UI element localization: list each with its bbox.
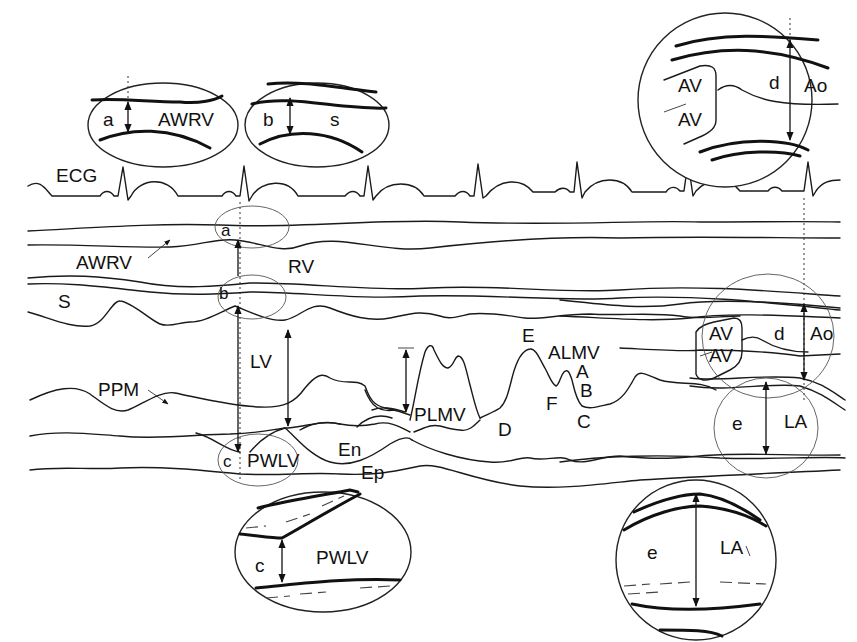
inset-a-measure-label: a: [103, 110, 114, 129]
label-meas-d: d: [774, 324, 785, 343]
inset-e: [616, 480, 776, 640]
label-aorta: Ao: [810, 324, 833, 343]
lv-septal-surface-line: [28, 301, 740, 326]
aorta-anterior-wall-1: [560, 300, 840, 308]
ppm-line: [30, 375, 410, 415]
aorta-anterior-wall-2: [560, 315, 840, 320]
label-aortic-valve-top: AV: [709, 324, 733, 343]
awrv-pointer: [148, 240, 170, 258]
label-meas-e: e: [732, 414, 743, 433]
rv-anterior-wall-line-2: [28, 237, 840, 249]
lv-posterior-endocardium-line: [30, 423, 410, 437]
label-septum: S: [58, 292, 71, 311]
label-left-atrium: LA: [784, 412, 807, 431]
label-point-d: D: [498, 420, 512, 439]
inset-d-valve-top-label: AV: [678, 76, 702, 95]
inset-d-measure-label: d: [769, 73, 780, 92]
inset-b-measure-label: b: [263, 110, 274, 129]
inset-e-measure-label: e: [647, 543, 658, 562]
inset-d: [638, 13, 838, 187]
label-aortic-valve-bottom: AV: [709, 346, 733, 365]
label-lv: LV: [250, 352, 272, 371]
label-point-c: C: [577, 412, 591, 431]
label-pwlv: PWLV: [247, 451, 299, 470]
label-meas-a: a: [221, 222, 230, 239]
label-meas-c: c: [223, 453, 232, 470]
label-plmv: PLMV: [414, 405, 466, 424]
la-posterior-wall-line: [560, 456, 845, 462]
ppm-pointer: [148, 390, 168, 404]
label-ppm: PPM: [98, 380, 139, 399]
label-awrv: AWRV: [76, 253, 132, 272]
inset-d-label: Ao: [804, 76, 827, 95]
inset-e-label: LA: [720, 538, 743, 557]
label-point-b: B: [580, 381, 593, 400]
echo-diagram: ECG AWRV RV S LV PPM a b c PWLV En Ep PL…: [0, 0, 857, 642]
inset-b-label: s: [330, 110, 340, 129]
inset-a-label: AWRV: [158, 110, 214, 129]
label-point-a: A: [576, 362, 589, 381]
label-almv: ALMV: [548, 343, 600, 362]
inset-c-label: PWLV: [316, 548, 368, 567]
label-rv: RV: [288, 257, 314, 276]
label-endocardium: En: [338, 440, 361, 459]
rv-anterior-wall-line-1: [28, 221, 840, 231]
label-ecg: ECG: [56, 166, 97, 185]
label-point-f: F: [546, 394, 558, 413]
label-meas-b: b: [219, 285, 228, 302]
label-epicardium: Ep: [361, 463, 384, 482]
septum-line-1: [28, 276, 840, 296]
inset-d-valve-bottom-label: AV: [678, 110, 702, 129]
inset-c-measure-label: c: [255, 556, 265, 575]
label-point-e: E: [522, 326, 535, 345]
